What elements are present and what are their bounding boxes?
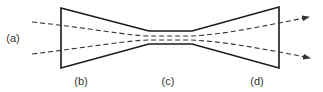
- label-b-inlet: (b): [74, 75, 87, 87]
- upper-streamline: [32, 17, 309, 36]
- lower-streamline: [32, 40, 310, 58]
- label-a: (a): [6, 32, 19, 44]
- label-c-throat: (c): [162, 75, 175, 87]
- label-d-outlet: (d): [250, 75, 263, 87]
- nozzle-outline: [61, 7, 279, 68]
